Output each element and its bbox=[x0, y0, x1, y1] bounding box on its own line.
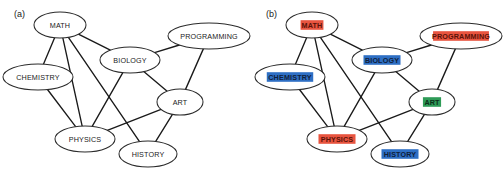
node-label-math: MATH bbox=[50, 21, 70, 30]
graph-edge bbox=[330, 34, 362, 50]
graph-node-math[interactable]: MATH bbox=[34, 12, 86, 38]
panel-b-label: (b) bbox=[266, 9, 277, 19]
graph-edge bbox=[299, 90, 327, 127]
node-label-biology: BIOLOGY bbox=[113, 56, 146, 65]
graph-node-history[interactable]: HISTORY bbox=[371, 141, 429, 167]
node-label-biology: BIOLOGY bbox=[365, 56, 399, 65]
graph-edge bbox=[344, 73, 375, 127]
graph-edge bbox=[78, 34, 110, 50]
graph-node-physics[interactable]: PHYSICS bbox=[55, 126, 115, 152]
panel-b-graph: MATHCHEMISTRYBIOLOGYPROGRAMMINGARTPHYSIC… bbox=[252, 0, 504, 177]
node-label-math: MATH bbox=[302, 21, 323, 30]
graph-edge bbox=[186, 49, 204, 90]
panel-b: (b) MATHCHEMISTRYBIOLOGYPROGRAMMINGARTPH… bbox=[252, 0, 504, 177]
node-label-art: ART bbox=[173, 98, 188, 107]
graph-edge bbox=[43, 38, 54, 64]
graph-edge bbox=[144, 72, 167, 92]
graph-node-biology[interactable]: BIOLOGY bbox=[100, 47, 160, 73]
graph-node-art[interactable]: ART bbox=[409, 89, 455, 115]
graph-edge bbox=[295, 38, 306, 64]
graph-edge bbox=[359, 109, 413, 130]
node-label-art: ART bbox=[424, 98, 440, 107]
node-label-programming: PROGRAMMING bbox=[180, 32, 238, 41]
graph-edge bbox=[47, 90, 75, 127]
graph-node-art[interactable]: ART bbox=[157, 89, 203, 115]
node-label-chemistry: CHEMISTRY bbox=[268, 73, 311, 82]
node-label-history: HISTORY bbox=[132, 150, 165, 159]
graph-edge bbox=[92, 73, 123, 127]
node-label-physics: PHYSICS bbox=[321, 135, 354, 144]
node-label-chemistry: CHEMISTRY bbox=[16, 73, 60, 82]
graph-node-chemistry[interactable]: CHEMISTRY bbox=[3, 64, 73, 90]
graph-edge bbox=[396, 72, 419, 92]
graph-node-programming[interactable]: PROGRAMMING bbox=[168, 23, 250, 49]
graph-node-biology[interactable]: BIOLOGY bbox=[352, 47, 412, 73]
graph-edge bbox=[408, 114, 425, 141]
graph-edge bbox=[155, 45, 180, 53]
node-label-programming: PROGRAMMING bbox=[432, 32, 490, 41]
graph-edge bbox=[438, 49, 456, 90]
graph-node-programming[interactable]: PROGRAMMING bbox=[420, 23, 502, 49]
graph-edge bbox=[107, 109, 161, 130]
node-label-physics: PHYSICS bbox=[69, 135, 102, 144]
graph-edge bbox=[407, 45, 432, 53]
graph-figure: (a) MATHCHEMISTRYBIOLOGYPROGRAMMINGARTPH… bbox=[0, 0, 504, 177]
panel-a-graph: MATHCHEMISTRYBIOLOGYPROGRAMMINGARTPHYSIC… bbox=[0, 0, 252, 177]
graph-node-math[interactable]: MATH bbox=[286, 12, 338, 38]
panel-a-label: (a) bbox=[14, 9, 25, 19]
graph-edge bbox=[156, 114, 173, 141]
panel-a: (a) MATHCHEMISTRYBIOLOGYPROGRAMMINGARTPH… bbox=[0, 0, 252, 177]
node-label-history: HISTORY bbox=[384, 150, 417, 159]
graph-node-physics[interactable]: PHYSICS bbox=[307, 126, 367, 152]
graph-node-chemistry[interactable]: CHEMISTRY bbox=[255, 64, 325, 90]
graph-node-history[interactable]: HISTORY bbox=[119, 141, 177, 167]
